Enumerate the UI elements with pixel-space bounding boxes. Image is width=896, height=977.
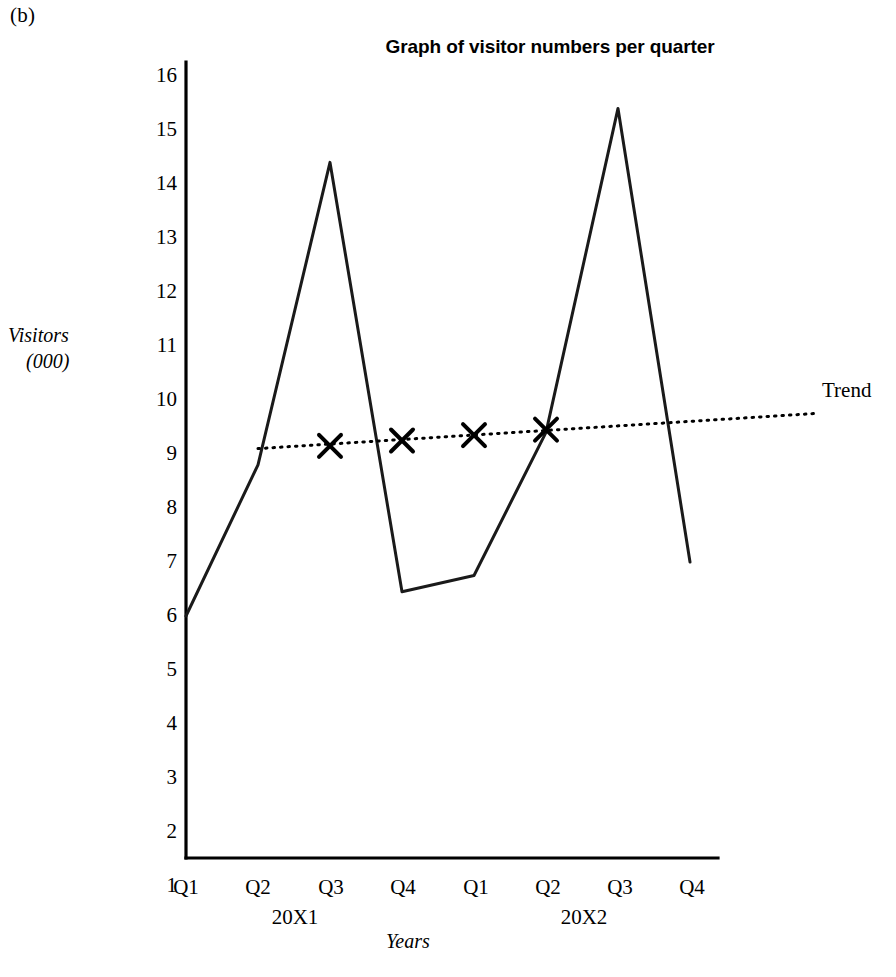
plot-area xyxy=(0,0,896,977)
trend-x-marker xyxy=(535,419,557,441)
visitors-data-line xyxy=(186,108,690,616)
trend-x-marker xyxy=(319,435,341,457)
chart-figure: (b) Graph of visitor numbers per quarter… xyxy=(0,0,896,977)
